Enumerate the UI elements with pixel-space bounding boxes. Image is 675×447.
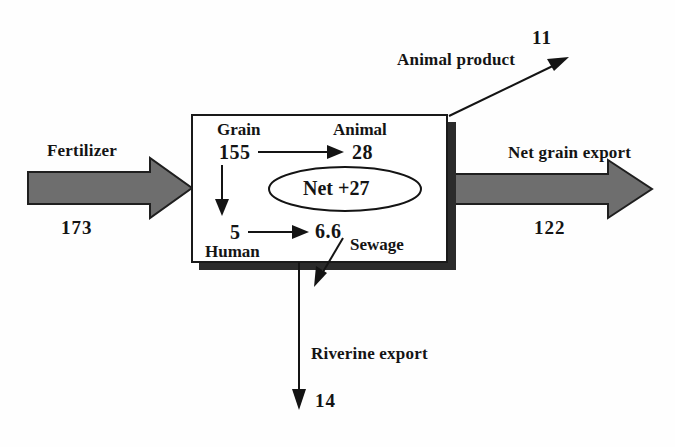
net-balance-label: Net +27 bbox=[303, 178, 369, 198]
node-sewage-label: Sewage bbox=[350, 236, 404, 253]
fertilizer-value: 173 bbox=[61, 218, 93, 237]
node-animal-value: 28 bbox=[352, 142, 373, 162]
fertilizer-label: Fertilizer bbox=[47, 142, 117, 159]
grain-to-animal-arrowhead bbox=[327, 145, 344, 159]
node-animal-label: Animal bbox=[333, 121, 387, 138]
animal-product-value: 11 bbox=[532, 28, 552, 47]
net-grain-export-label: Net grain export bbox=[508, 144, 631, 161]
animal-product-arrowhead bbox=[547, 57, 569, 71]
grain-to-human-arrowhead bbox=[215, 199, 229, 216]
net-grain-export-value: 122 bbox=[534, 218, 566, 237]
riverine-export-label: Riverine export bbox=[311, 345, 428, 362]
node-human-value: 5 bbox=[230, 222, 241, 242]
riverine-export-value: 14 bbox=[315, 391, 336, 410]
riverine-export-arrowhead bbox=[292, 389, 306, 410]
animal-product-label: Animal product bbox=[397, 51, 515, 68]
node-grain-label: Grain bbox=[217, 121, 260, 138]
node-grain-value: 155 bbox=[219, 142, 251, 162]
diagram-canvas: Fertilizer 173 Net grain export 122 Anim… bbox=[0, 0, 675, 447]
animal-product-arrow-line bbox=[449, 62, 561, 116]
node-human-label: Human bbox=[205, 243, 260, 260]
node-sewage-value: 6.6 bbox=[315, 221, 342, 241]
human-to-sewage-arrowhead bbox=[292, 225, 309, 239]
